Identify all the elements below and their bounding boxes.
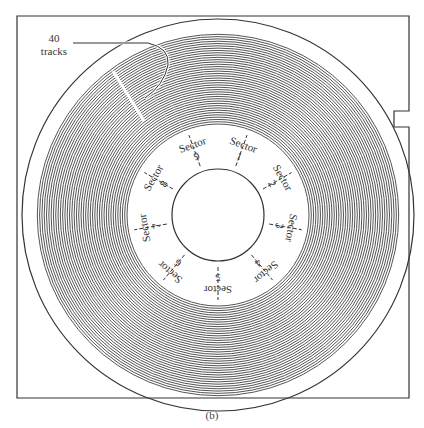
floppy-disk-diagram: Sector1Sector2Sector3Sector4Sector5Secto…	[0, 0, 424, 428]
figure-caption: (b)	[0, 409, 424, 421]
center-hub	[172, 169, 264, 261]
svg-text:Sector: Sector	[204, 284, 232, 296]
tracks-label-word: tracks	[41, 45, 67, 57]
tracks-label-number: 40	[49, 32, 61, 44]
svg-text:5: 5	[215, 272, 221, 284]
